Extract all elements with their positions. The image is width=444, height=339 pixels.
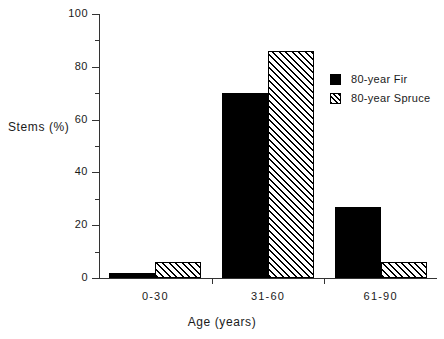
- bar-0-30-spruce: [155, 262, 201, 278]
- y-tick-major: [92, 120, 100, 121]
- y-axis-title: Stems (%): [8, 120, 69, 134]
- bar-31-60-spruce: [268, 51, 314, 278]
- y-tick-label: 40: [50, 166, 88, 177]
- category-label: 31-60: [208, 290, 328, 302]
- bar-61-90-spruce: [381, 262, 427, 278]
- bar-chart: 020406080100 0-3031-6061-90 Stems (%) Ag…: [0, 0, 444, 339]
- x-axis-line: [99, 278, 437, 279]
- x-axis-title: Age (years): [0, 315, 444, 329]
- legend-item-spruce: 80-year Spruce: [330, 90, 430, 106]
- x-tick: [324, 279, 325, 284]
- legend-swatch-hatch-icon: [330, 93, 341, 104]
- legend-label-spruce: 80-year Spruce: [351, 92, 430, 104]
- y-tick-minor: [95, 252, 100, 253]
- chart-legend: 80-year Fir 80-year Spruce: [330, 71, 430, 109]
- y-tick-label: 80: [50, 61, 88, 72]
- y-tick-label: 0: [50, 272, 88, 283]
- x-tick: [212, 279, 213, 284]
- y-tick-minor: [95, 40, 100, 41]
- y-tick-label: 100: [50, 8, 88, 19]
- y-tick-label: 20: [50, 219, 88, 230]
- y-tick-minor: [95, 93, 100, 94]
- y-tick-major: [92, 67, 100, 68]
- y-tick-major: [92, 225, 100, 226]
- y-tick-minor: [95, 146, 100, 147]
- category-label: 61-90: [321, 290, 441, 302]
- legend-label-fir: 80-year Fir: [351, 73, 407, 85]
- bar-31-60-fir: [222, 93, 268, 278]
- bar-61-90-fir: [335, 207, 381, 278]
- y-tick-minor: [95, 199, 100, 200]
- legend-item-fir: 80-year Fir: [330, 71, 430, 87]
- y-tick-major: [92, 278, 100, 279]
- y-tick-major: [92, 14, 100, 15]
- category-label: 0-30: [95, 290, 215, 302]
- legend-swatch-solid-icon: [330, 74, 341, 85]
- bar-0-30-fir: [109, 273, 155, 278]
- y-tick-major: [92, 172, 100, 173]
